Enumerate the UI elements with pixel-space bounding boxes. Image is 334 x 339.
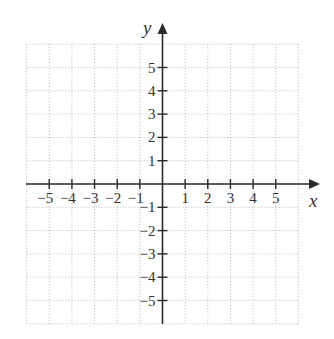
- x-tick-label: 5: [272, 190, 280, 206]
- y-tick-label: −2: [140, 223, 156, 239]
- y-tick-label: 4: [148, 83, 156, 99]
- y-axis-label: y: [141, 17, 152, 38]
- x-axis-arrow-icon: [309, 179, 320, 189]
- x-tick-label: 1: [181, 190, 189, 206]
- y-tick-label: 5: [148, 60, 156, 76]
- x-axis-label: x: [308, 190, 318, 211]
- x-tick-label: 4: [249, 190, 257, 206]
- y-tick-label: −4: [140, 269, 156, 285]
- coordinate-plane: −5−4−3−2−112345 −5−4−3−2−112345 x y: [0, 0, 334, 339]
- x-tick-label: −4: [60, 190, 76, 206]
- x-tick-label: 2: [204, 190, 212, 206]
- x-ticks: −5−4−3−2−112345: [37, 179, 279, 206]
- y-axis-arrow-icon: [158, 23, 168, 34]
- x-tick-label: −3: [83, 190, 99, 206]
- x-tick-label: −5: [37, 190, 53, 206]
- y-tick-label: 3: [148, 106, 156, 122]
- x-tick-label: 3: [227, 190, 235, 206]
- y-tick-label: 2: [148, 129, 156, 145]
- y-tick-label: −1: [140, 199, 156, 215]
- y-tick-label: −3: [140, 246, 156, 262]
- y-tick-label: −5: [140, 293, 156, 309]
- x-tick-label: −2: [105, 190, 121, 206]
- y-tick-label: 1: [148, 153, 156, 169]
